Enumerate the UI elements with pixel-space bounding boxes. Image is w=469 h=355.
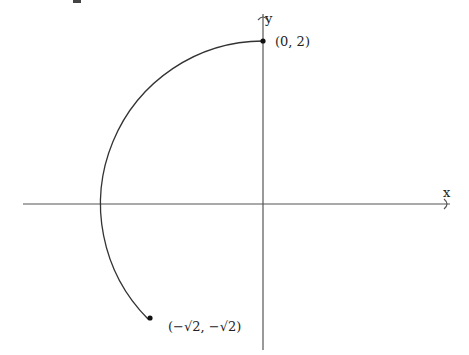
point-start-label: (0, 2)	[275, 35, 310, 48]
y-axis-label: y	[265, 12, 272, 25]
point-end	[147, 315, 152, 320]
point-end-label: (−√2, −√2)	[168, 320, 241, 333]
artifact-mark	[73, 0, 81, 3]
x-axis-label: x	[443, 186, 450, 199]
diagram-canvas	[0, 0, 469, 355]
arc-curve	[101, 41, 263, 319]
point-start	[260, 38, 265, 43]
